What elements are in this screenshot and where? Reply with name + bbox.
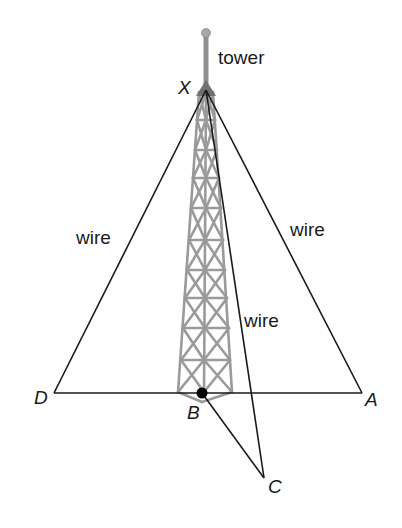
wire-center-label: wire xyxy=(244,311,279,330)
tower-antenna xyxy=(196,29,216,97)
point-d-label: D xyxy=(34,388,48,407)
point-b-label: B xyxy=(187,403,200,422)
tower-label: tower xyxy=(218,48,264,67)
wire-right-label: wire xyxy=(290,220,325,239)
point-x-label: X xyxy=(178,78,191,97)
point-a-label: A xyxy=(365,390,378,409)
tower-lattice xyxy=(178,92,232,402)
segments xyxy=(54,90,362,478)
point-c-label: C xyxy=(268,477,282,496)
diagram-canvas xyxy=(0,0,402,528)
point-b-marker xyxy=(197,388,208,399)
wire-left-label: wire xyxy=(76,228,111,247)
segment-bc xyxy=(202,393,264,478)
